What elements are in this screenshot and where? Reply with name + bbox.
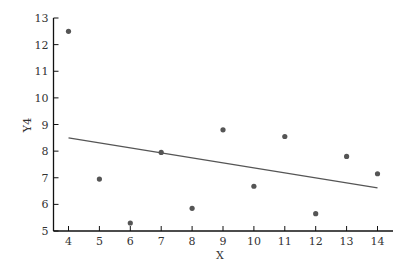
x-tick-label: 9: [220, 235, 227, 248]
y-tick-label: 13: [35, 12, 49, 25]
data-point: [128, 220, 133, 225]
y-tick-label: 6: [42, 198, 49, 211]
data-point: [251, 184, 256, 189]
axes: 45678910111213145678910111213: [35, 12, 394, 248]
x-tick-label: 6: [127, 235, 134, 248]
x-tick-label: 4: [65, 235, 72, 248]
x-tick-label: 5: [96, 235, 103, 248]
data-point: [97, 176, 102, 181]
data-point: [190, 206, 195, 211]
x-tick-label: 8: [189, 235, 196, 248]
y-tick-label: 8: [42, 145, 49, 158]
scatter-chart: 45678910111213145678910111213 X Y4: [0, 0, 411, 271]
y-tick-label: 9: [42, 119, 49, 132]
y-tick-label: 11: [35, 65, 49, 78]
x-tick-label: 13: [340, 235, 354, 248]
regression-line: [69, 138, 378, 188]
x-tick-label: 7: [158, 235, 165, 248]
data-point: [66, 29, 71, 34]
x-tick-label: 12: [309, 235, 323, 248]
x-tick-label: 11: [278, 235, 292, 248]
y-axis-label: Y4: [21, 118, 34, 133]
data-point: [375, 171, 380, 176]
plot-area: [66, 29, 380, 226]
data-point: [313, 211, 318, 216]
y-tick-label: 12: [35, 39, 49, 52]
x-tick-label: 10: [247, 235, 261, 248]
x-axis-label: X: [216, 249, 224, 262]
data-point: [282, 134, 287, 139]
y-tick-label: 10: [35, 92, 49, 105]
x-tick-label: 14: [371, 235, 385, 248]
data-point: [220, 127, 225, 132]
data-point: [344, 154, 349, 159]
y-tick-label: 5: [42, 225, 49, 238]
y-tick-label: 7: [42, 172, 49, 185]
